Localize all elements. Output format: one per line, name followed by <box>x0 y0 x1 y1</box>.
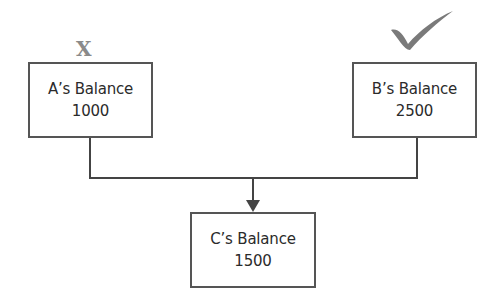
node-c-label: C’s Balance <box>210 228 295 250</box>
node-a-value: 1000 <box>72 100 109 122</box>
node-b-balance: B’s Balance 2500 <box>352 62 477 138</box>
arrowhead-icon <box>246 200 260 212</box>
node-a-label: A’s Balance <box>48 78 133 100</box>
node-c-value: 1500 <box>234 250 271 272</box>
checkmark-icon <box>391 11 453 50</box>
node-b-value: 2500 <box>396 100 433 122</box>
node-c-balance: C’s Balance 1500 <box>190 212 316 288</box>
node-a-balance: A’s Balance 1000 <box>28 62 153 138</box>
x-mark-icon: X <box>76 39 92 59</box>
node-b-label: B’s Balance <box>372 78 457 100</box>
